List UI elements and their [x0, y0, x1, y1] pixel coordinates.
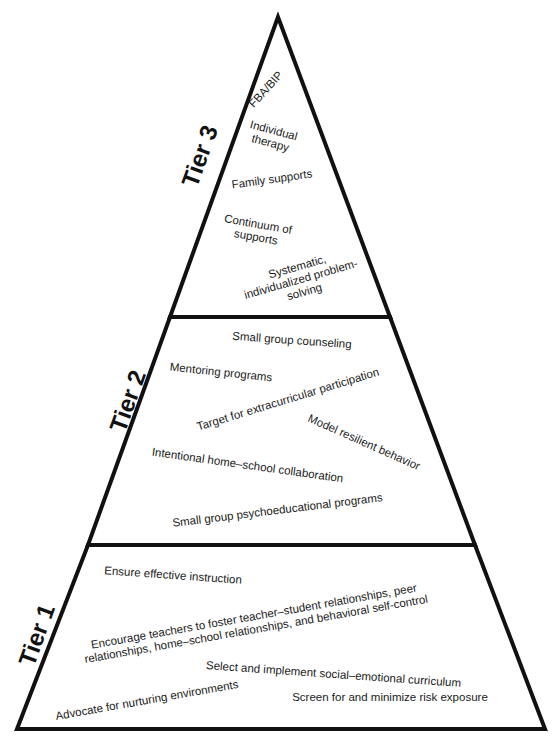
- tier-1-item-screen-risk-exposure: Screen for and minimize risk exposure: [284, 691, 496, 704]
